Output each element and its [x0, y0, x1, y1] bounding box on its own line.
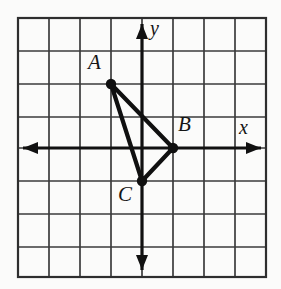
coordinate-grid-svg [0, 0, 281, 289]
point-b-label: B [178, 114, 191, 135]
point-b-marker [168, 143, 178, 153]
point-a-marker [106, 79, 116, 89]
y-axis-label: y [150, 18, 159, 38]
point-a-label: A [88, 52, 101, 73]
point-c-marker [137, 176, 147, 186]
coordinate-plane-figure: A B C x y [0, 0, 281, 289]
x-axis-label: x [239, 117, 248, 137]
point-c-label: C [118, 184, 132, 205]
